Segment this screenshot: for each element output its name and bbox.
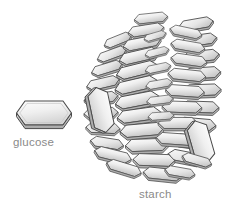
helix-turn-2-right <box>162 68 206 116</box>
starch-polymer <box>83 12 221 184</box>
helix-turn-1-right <box>169 24 208 70</box>
glucose-starch-diagram: glucose starch <box>0 0 227 202</box>
glucose-monomer <box>17 101 72 129</box>
starch-label: starch <box>139 189 172 201</box>
hexagon-monomer-icon <box>17 101 72 129</box>
diagram-canvas <box>0 0 227 202</box>
hexagon-helix-polymer-icon <box>83 12 221 184</box>
glucose-label: glucose <box>13 137 54 149</box>
